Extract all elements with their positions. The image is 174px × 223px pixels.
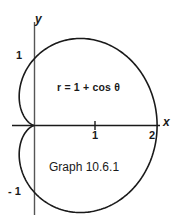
y-tick-label-negative-1: - 1	[8, 186, 21, 197]
cardioid-plot-svg	[0, 0, 174, 223]
figure-caption: Graph 10.6.1	[49, 161, 119, 173]
x-tick-label-1: 1	[92, 130, 98, 141]
y-tick-label-1: 1	[16, 50, 22, 61]
polar-equation-annotation: r = 1 + cos θ	[57, 82, 120, 93]
polar-graph-figure: y x 1 2 1 - 1 r = 1 + cos θ Graph 10.6.1	[0, 0, 174, 223]
y-axis-label: y	[35, 13, 42, 25]
x-axis-label: x	[163, 116, 170, 128]
x-tick-label-2: 2	[149, 130, 155, 141]
